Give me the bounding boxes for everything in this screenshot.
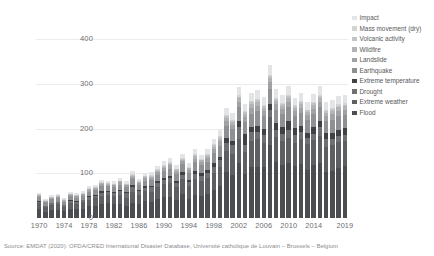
bar-2002 bbox=[237, 87, 241, 218]
x-tick-label: 1994 bbox=[180, 222, 197, 230]
bar-segment-drought bbox=[237, 127, 241, 139]
bar-segment-earthquake bbox=[311, 114, 315, 127]
bar-segment-earthquake bbox=[180, 164, 184, 172]
x-tick-label: 1970 bbox=[31, 222, 48, 230]
legend-item-mass-movement-dry-[interactable]: Mass movement (dry) bbox=[352, 25, 434, 33]
bar-segment-impact bbox=[224, 108, 228, 115]
bar-segment-earthquake bbox=[255, 111, 259, 125]
bar-segment-extreme-weather bbox=[243, 152, 247, 173]
bar-segment-extreme-weather bbox=[249, 141, 253, 167]
legend-item-drought[interactable]: Drought bbox=[352, 88, 434, 96]
bar-segment-flood bbox=[305, 170, 309, 218]
bar-segment-flood bbox=[130, 203, 134, 218]
bar-segment-extreme-weather bbox=[168, 183, 172, 197]
bar-segment-extreme-temperature bbox=[311, 127, 315, 134]
bar-segment-flood bbox=[249, 167, 253, 218]
bar-segment-extreme-weather bbox=[212, 173, 216, 190]
legend-item-extreme-temperature[interactable]: Extreme temperature bbox=[352, 77, 434, 85]
legend-item-extreme-weather[interactable]: Extreme weather bbox=[352, 98, 434, 106]
bar-segment-flood bbox=[174, 200, 178, 218]
legend-swatch-icon bbox=[352, 58, 357, 63]
legend-swatch-icon bbox=[352, 100, 357, 105]
bar-segment-drought bbox=[268, 110, 272, 117]
bar-1997 bbox=[205, 149, 209, 218]
bar-segment-impact bbox=[330, 100, 334, 108]
bar-segment-flood bbox=[205, 194, 209, 218]
x-tick-label: 1974 bbox=[56, 222, 73, 230]
bar-1980 bbox=[99, 180, 103, 218]
bar-1988 bbox=[149, 172, 153, 218]
bar-segment-flood bbox=[243, 174, 247, 218]
plot-area bbox=[36, 26, 348, 218]
legend-item-flood[interactable]: Flood bbox=[352, 109, 434, 117]
bar-segment-flood bbox=[218, 186, 222, 218]
bar-segment-flood bbox=[274, 162, 278, 218]
bar-segment-extreme-weather bbox=[130, 192, 134, 203]
bar-segment-flood bbox=[212, 190, 216, 218]
bar-1989 bbox=[155, 166, 159, 218]
bar-segment-earthquake bbox=[218, 146, 222, 157]
y-tick-label: 300 bbox=[65, 80, 93, 88]
bar-segment-extreme-weather bbox=[124, 198, 128, 206]
legend-item-volcanic-activity[interactable]: Volcanic activity bbox=[352, 35, 434, 43]
x-tick-label: 2010 bbox=[280, 222, 297, 230]
bar-segment-extreme-weather bbox=[311, 140, 315, 165]
bar-segment-extreme-weather bbox=[305, 144, 309, 169]
x-tick-label: 1998 bbox=[205, 222, 222, 230]
bar-segment-extreme-temperature bbox=[293, 128, 297, 135]
bar-segment-earthquake bbox=[286, 107, 290, 120]
bar-segment-extreme-weather bbox=[180, 179, 184, 194]
bar-segment-extreme-weather bbox=[274, 137, 278, 162]
bar-segment-drought bbox=[274, 130, 278, 138]
legend-item-label: Impact bbox=[360, 14, 379, 22]
bar-segment-extreme-weather bbox=[299, 139, 303, 164]
bar-segment-extreme-weather bbox=[118, 195, 122, 204]
bar-segment-flood bbox=[262, 167, 266, 218]
bar-segment-extreme-temperature bbox=[324, 133, 328, 140]
bar-segment-flood bbox=[280, 165, 284, 218]
bar-segment-flood bbox=[187, 199, 191, 218]
bar-segment-flood bbox=[106, 203, 110, 218]
bar-2011 bbox=[293, 97, 297, 218]
bar-segment-flood bbox=[180, 194, 184, 218]
bar-1986 bbox=[137, 179, 141, 218]
bar-segment-drought bbox=[324, 139, 328, 147]
legend-swatch-icon bbox=[352, 16, 357, 21]
bar-segment-flood bbox=[299, 164, 303, 218]
legend-swatch-icon bbox=[352, 68, 357, 73]
bar-segment-drought bbox=[249, 132, 253, 140]
bar-segment-flood bbox=[143, 201, 147, 218]
bar-1984 bbox=[124, 181, 128, 218]
bar-segment-extreme-weather bbox=[93, 198, 97, 206]
bar-segment-extreme-temperature bbox=[262, 129, 266, 136]
bar-segment-drought bbox=[343, 135, 347, 142]
legend-item-landslide[interactable]: Landslide bbox=[352, 56, 434, 64]
bar-segment-flood bbox=[311, 165, 315, 218]
legend-item-impact[interactable]: Impact bbox=[352, 14, 434, 22]
bar-segment-earthquake bbox=[249, 114, 253, 128]
bar-segment-drought bbox=[255, 132, 259, 140]
bar-1979 bbox=[93, 185, 97, 218]
bar-segment-extreme-weather bbox=[324, 147, 328, 172]
bar-1992 bbox=[174, 165, 178, 218]
bar-segment-extreme-weather bbox=[143, 191, 147, 201]
bar-segment-impact bbox=[243, 104, 247, 111]
bar-2013 bbox=[305, 102, 309, 218]
bar-2019 bbox=[343, 95, 347, 218]
bar-segment-earthquake bbox=[193, 162, 197, 171]
bar-segment-extreme-weather bbox=[112, 196, 116, 204]
bar-segment-extreme-weather bbox=[87, 200, 91, 207]
legend-swatch-icon bbox=[352, 26, 357, 31]
source-caption: Source: EMDAT (2020): OFDA/CRED Internat… bbox=[4, 242, 338, 250]
bar-1993 bbox=[180, 154, 184, 218]
bar-segment-extreme-temperature bbox=[343, 128, 347, 135]
x-tick-label: 2014 bbox=[305, 222, 322, 230]
bar-segment-extreme-weather bbox=[162, 184, 166, 197]
x-tick-label: 2019 bbox=[336, 222, 353, 230]
legend-swatch-icon bbox=[352, 47, 357, 52]
y-tick-label: 100 bbox=[65, 169, 93, 177]
legend-item-wildfire[interactable]: Wildfire bbox=[352, 46, 434, 54]
legend-item-earthquake[interactable]: Earthquake bbox=[352, 67, 434, 75]
bar-segment-flood bbox=[43, 212, 47, 218]
bar-segment-extreme-weather bbox=[255, 139, 259, 167]
